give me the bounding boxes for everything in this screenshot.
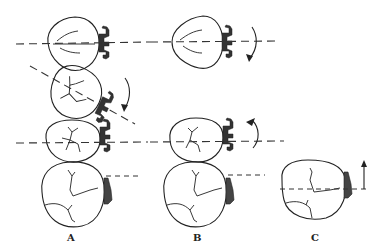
panel-label-b: B (193, 232, 201, 243)
panel-label-c: C (311, 232, 319, 243)
bracket-b2 (223, 118, 233, 151)
tooth-b2-molar (170, 118, 223, 162)
tooth-a3-molar (46, 120, 100, 162)
bracket-a3 (100, 119, 110, 152)
tooth-c1-molar (282, 160, 346, 219)
diagram-canvas (0, 0, 379, 250)
attachment-a4 (104, 178, 112, 204)
rotation-arrow-b1[interactable] (246, 27, 256, 62)
panel-label-a: A (67, 232, 75, 243)
attachment-b3 (226, 178, 234, 204)
panel-c (280, 160, 367, 219)
axis-a3 (16, 142, 148, 143)
rotation-arrow-b2-counterclockwise[interactable] (246, 118, 258, 148)
tooth-a2-tilted (42, 59, 110, 127)
vertical-arrow-c-up[interactable] (361, 160, 367, 189)
axis-b1 (150, 41, 280, 42)
tooth-a4-molar (42, 162, 105, 227)
rotation-arrow-a-clockwise[interactable] (121, 78, 130, 112)
panel-a (16, 17, 150, 227)
panel-b (150, 16, 284, 227)
axis-a2-tilted (30, 66, 135, 124)
attachment-c1 (344, 172, 352, 198)
tooth-b3-molar (164, 162, 227, 227)
